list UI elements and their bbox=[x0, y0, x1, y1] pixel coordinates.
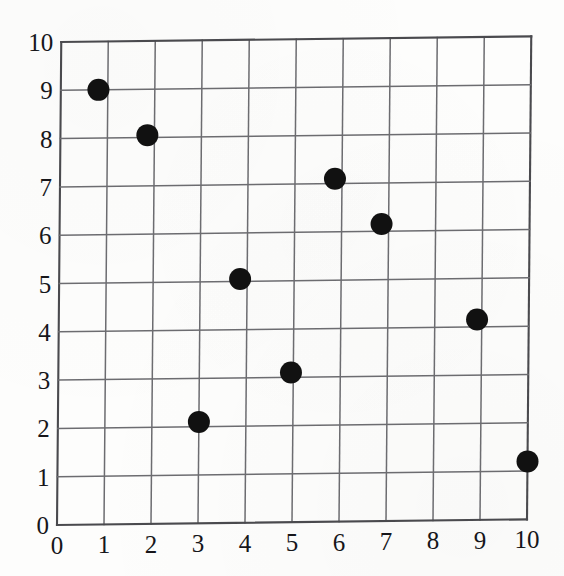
x-axis-tick-label: 9 bbox=[474, 528, 487, 553]
y-axis-tick-label: 4 bbox=[38, 319, 51, 344]
x-axis-tick-label: 3 bbox=[192, 531, 205, 556]
data-point-marker bbox=[517, 450, 539, 472]
scatter-plot-canvas bbox=[0, 0, 564, 576]
x-axis-tick-label: 6 bbox=[333, 530, 346, 555]
data-point-marker bbox=[324, 168, 346, 190]
x-axis-tick-label: 8 bbox=[427, 528, 440, 553]
x-axis-tick-label: 1 bbox=[98, 532, 111, 557]
x-axis-tick-label: 10 bbox=[515, 527, 540, 552]
data-points-group bbox=[87, 79, 538, 473]
x-axis-tick-label: 0 bbox=[51, 533, 64, 558]
x-axis-tick-label: 7 bbox=[380, 529, 393, 554]
y-axis-tick-label: 3 bbox=[38, 368, 51, 393]
data-point-marker bbox=[188, 411, 210, 433]
y-axis-tick-label: 6 bbox=[39, 223, 52, 248]
y-axis-tick-label: 7 bbox=[39, 174, 52, 199]
y-axis-tick-label: 0 bbox=[37, 513, 50, 538]
data-point-marker bbox=[466, 309, 488, 331]
y-axis-tick-label: 8 bbox=[40, 126, 53, 151]
data-point-marker bbox=[229, 268, 251, 290]
grid-horizontal-lines bbox=[57, 36, 531, 525]
x-axis-tick-label: 5 bbox=[286, 530, 299, 555]
y-axis-tick-label: 10 bbox=[28, 30, 53, 55]
data-point-marker bbox=[371, 213, 393, 235]
y-axis-tick-label: 5 bbox=[39, 271, 52, 296]
y-axis-tick-label: 2 bbox=[37, 416, 50, 441]
x-axis-tick-label: 4 bbox=[239, 531, 252, 556]
data-point-marker bbox=[136, 124, 158, 146]
scatter-plot-page: 012345678910 012345678910 bbox=[0, 0, 564, 576]
data-point-marker bbox=[87, 79, 109, 101]
y-axis-tick-label: 9 bbox=[40, 78, 53, 103]
y-axis-tick-label: 1 bbox=[37, 464, 50, 489]
data-point-marker bbox=[280, 361, 302, 383]
x-axis-tick-label: 2 bbox=[145, 532, 158, 557]
